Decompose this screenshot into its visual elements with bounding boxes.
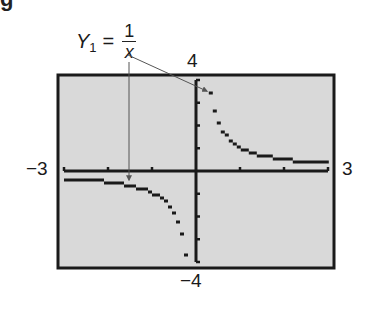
graph-screen	[0, 0, 370, 310]
